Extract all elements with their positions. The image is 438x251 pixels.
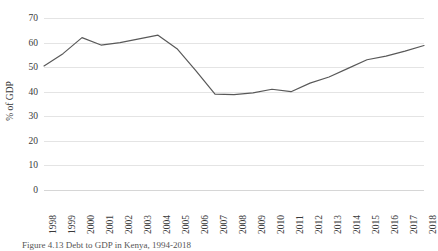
x-tick-label-2018: 2018 [428, 215, 438, 234]
x-tick-label-1999: 1999 [67, 215, 77, 234]
gridline-0 [44, 190, 424, 191]
y-tick-label-30: 30 [29, 111, 39, 121]
x-tick-label-2012: 2012 [314, 215, 324, 234]
x-tick-label-2014: 2014 [352, 215, 362, 234]
debt-to-gdp-line [44, 35, 424, 94]
y-tick-label-20: 20 [29, 136, 39, 146]
y-axis-tick-labels: 010203040506070 [0, 0, 44, 251]
x-tick-label-2010: 2010 [276, 215, 286, 234]
y-tick-label-60: 60 [29, 38, 39, 48]
y-tick-label-70: 70 [29, 13, 39, 23]
x-tick-label-2016: 2016 [390, 215, 400, 234]
x-tick-label-2009: 2009 [257, 215, 267, 234]
x-tick-label-2017: 2017 [409, 215, 419, 234]
x-tick-label-2008: 2008 [238, 215, 248, 234]
y-tick-label-0: 0 [33, 185, 38, 195]
x-tick-label-2011: 2011 [295, 215, 305, 234]
y-tick-label-10: 10 [29, 160, 39, 170]
x-tick-label-2001: 2001 [105, 215, 115, 234]
x-tick-label-2007: 2007 [219, 215, 229, 234]
x-tick-label-2006: 2006 [200, 215, 210, 234]
x-tick-label-2013: 2013 [333, 215, 343, 234]
x-axis-tick-labels: 1998199920002001200220032004200520062007… [44, 192, 424, 238]
plot-area [44, 18, 424, 190]
x-tick-label-2003: 2003 [143, 215, 153, 234]
x-tick-label-2000: 2000 [86, 215, 96, 234]
x-tick-label-2002: 2002 [124, 215, 134, 234]
y-tick-label-40: 40 [29, 87, 39, 97]
figure-caption: Figure 4.13 Debt to GDP in Kenya, 1994-2… [22, 240, 422, 251]
y-tick-label-50: 50 [29, 62, 39, 72]
x-tick-label-1998: 1998 [48, 215, 58, 234]
x-tick-label-2005: 2005 [181, 215, 191, 234]
x-tick-label-2004: 2004 [162, 215, 172, 234]
line-series-svg [44, 18, 424, 190]
x-tick-label-2015: 2015 [371, 215, 381, 234]
